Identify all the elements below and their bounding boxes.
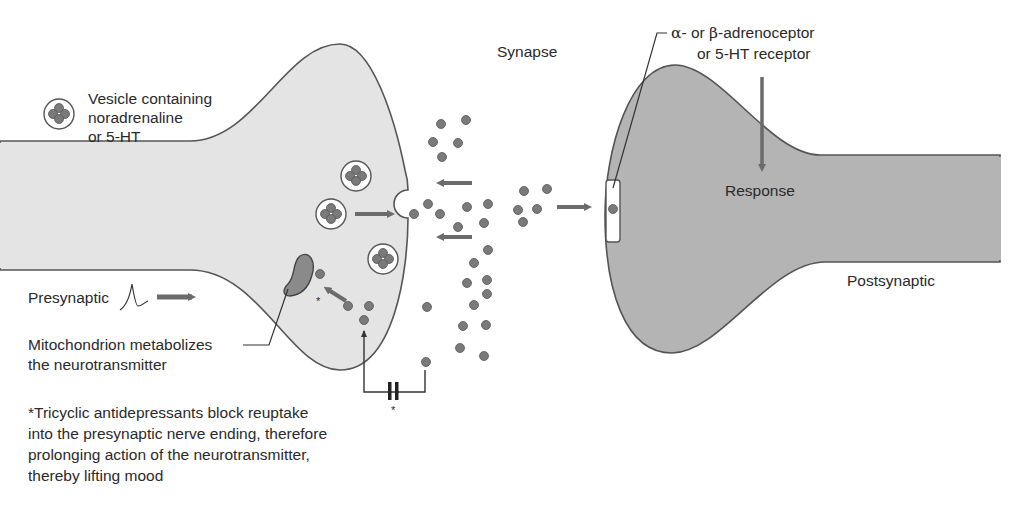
receptor-label-text: - or [681,24,709,41]
footnote-line4: thereby lifting mood [28,467,163,484]
receptor-label-line2: or 5-HT receptor [697,45,810,62]
bound-neurotransmitter-icon [609,205,618,214]
action-potential-icon [120,284,148,310]
asterisk-block: * [391,404,396,416]
response-label: Response [725,182,795,199]
vesicle-icon [368,244,398,274]
footnote-line2: into the presynaptic nerve ending, there… [28,425,327,442]
neurotransmitter-molecule-icon [316,270,325,279]
footnote-line3: prolonging action of the neurotransmitte… [28,446,310,463]
presynaptic-label: Presynaptic [28,289,109,306]
vesicle-legend-line1: Vesicle containing [88,90,212,107]
synaptic-cleft-molecules [422,116,552,367]
neurotransmitter-molecule-icon [410,210,419,219]
block-symbol-icon [395,382,399,400]
synapse-diagram: * * Vesicle containing noradrenaline or … [0,0,1026,531]
asterisk-mitochondrion: * [316,295,321,307]
vesicle-icon [316,199,346,229]
vesicle-legend-line3: or 5-HT [88,128,141,145]
mitochondrion-label-line1: Mitochondrion metabolizes [28,336,213,353]
block-symbol-icon [388,382,392,400]
receptor-label-line1: α- or β-adrenoceptor [671,24,815,42]
postsynaptic-label: Postsynaptic [847,272,935,289]
synapse-label: Synapse [497,43,557,60]
receptor-label-text: -adrenoceptor [718,24,815,41]
alpha-symbol: α [671,24,682,42]
mitochondrion-label-line2: the neurotransmitter [28,356,167,373]
postsynaptic-neuron [605,65,1000,353]
vesicle-icon [341,161,371,191]
vesicle-legend-line2: noradrenaline [88,109,183,126]
vesicle-legend-icon [44,99,74,129]
beta-symbol: β [709,24,718,42]
footnote-line1: *Tricyclic antidepressants block reuptak… [28,404,308,421]
